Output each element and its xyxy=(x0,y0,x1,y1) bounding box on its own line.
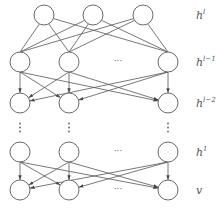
undirected-edge xyxy=(53,19,168,52)
vertical-ellipsis-dot xyxy=(167,131,169,133)
layer-label-h1: h1 xyxy=(196,145,208,159)
edges-group xyxy=(20,19,168,189)
undirected-edge xyxy=(20,24,39,52)
node-h1-1 xyxy=(10,142,30,162)
vertical-ellipsis-dot xyxy=(167,127,169,129)
undirected-edge xyxy=(148,24,168,52)
layer-labels-group: hlhl−1hl−2h1v xyxy=(196,8,216,197)
node-hl1-2 xyxy=(59,52,79,72)
undirected-edge xyxy=(69,20,135,52)
node-hl2-3 xyxy=(158,93,178,113)
vertical-ellipsis-dot xyxy=(68,127,70,129)
node-hl-2 xyxy=(83,5,103,25)
vertical-ellipsis-dot xyxy=(167,123,169,125)
undirected-edge xyxy=(20,19,134,52)
node-hl2-2 xyxy=(59,93,79,113)
layer-label-v: v xyxy=(196,184,203,197)
node-h1-3 xyxy=(158,142,178,162)
node-v-2 xyxy=(59,180,79,200)
node-v-3 xyxy=(158,180,178,200)
node-v-1 xyxy=(10,180,30,200)
horizontal-ellipsis-v: ··· xyxy=(114,184,123,194)
vertical-ellipsis-dot xyxy=(19,127,21,129)
node-hl-1 xyxy=(34,5,54,25)
directed-edge xyxy=(79,72,168,100)
deep-belief-network-diagram: hlhl−1hl−2h1v ········· xyxy=(0,0,216,212)
vertical-ellipsis-dot xyxy=(19,131,21,133)
horizontal-ellipsis-h1: ··· xyxy=(114,146,123,156)
node-hl-3 xyxy=(133,5,153,25)
layer-label-hl1: hl−1 xyxy=(196,55,216,69)
node-hl2-1 xyxy=(10,93,30,113)
layer-label-hl2: hl−2 xyxy=(196,96,216,110)
directed-edge xyxy=(79,162,168,187)
undirected-edge xyxy=(69,24,88,52)
node-h1-2 xyxy=(59,142,79,162)
vertical-ellipsis-dot xyxy=(68,123,70,125)
node-hl1-3 xyxy=(158,52,178,72)
undirected-edge xyxy=(49,24,69,52)
vertical-ellipsis-dot xyxy=(19,123,21,125)
layer-label-hl: hl xyxy=(196,8,205,22)
node-hl1-1 xyxy=(10,52,30,72)
directed-edge xyxy=(69,72,158,100)
vertical-ellipsis-dot xyxy=(68,131,70,133)
horizontal-ellipsis-hl1: ··· xyxy=(114,56,123,66)
